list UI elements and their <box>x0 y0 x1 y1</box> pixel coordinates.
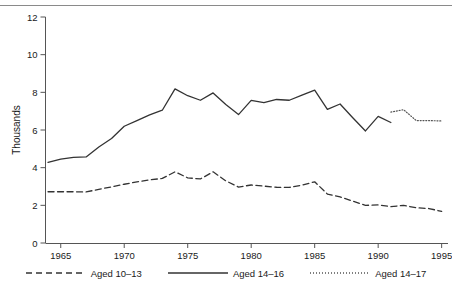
y-tick-label: 10 <box>27 49 38 60</box>
series-line-aged-14-16 <box>48 89 391 162</box>
x-tick-label: 1965 <box>50 250 71 261</box>
y-axis-title: Thousands <box>11 105 22 154</box>
x-axis-tick-labels: 1965197019751980198519901995 <box>50 250 452 261</box>
data-series-group <box>48 89 442 211</box>
x-tick-label: 1970 <box>114 250 135 261</box>
x-tick-label: 1990 <box>368 250 389 261</box>
legend-label-aged-14-17: Aged 14–17 <box>375 268 426 279</box>
x-tick-label: 1975 <box>177 250 198 261</box>
series-line-aged-10-13 <box>48 172 442 212</box>
x-tick-label: 1995 <box>431 250 452 261</box>
y-axis-ticks <box>41 17 46 243</box>
x-axis: 1965197019751980198519901995 <box>46 243 452 261</box>
y-tick-label: 12 <box>27 12 38 23</box>
legend-entry-aged-14-17: Aged 14–17 <box>310 268 426 279</box>
line-chart-svg: 024681012 Thousands 19651970197519801985… <box>0 0 452 288</box>
x-tick-label: 1985 <box>304 250 325 261</box>
legend-label-aged-14-16: Aged 14–16 <box>233 268 284 279</box>
y-tick-label: 6 <box>32 125 37 136</box>
legend-label-aged-10-13: Aged 10–13 <box>91 268 142 279</box>
y-tick-label: 8 <box>32 87 37 98</box>
series-line-aged-14-17 <box>391 110 442 121</box>
y-axis-tick-labels: 024681012 <box>27 12 38 249</box>
y-tick-label: 2 <box>32 200 37 211</box>
chart-legend: Aged 10–13 Aged 14–16 Aged 14–17 <box>0 262 452 284</box>
x-tick-label: 1980 <box>241 250 262 261</box>
legend-swatch-dotted <box>310 268 370 278</box>
legend-entry-aged-10-13: Aged 10–13 <box>26 268 142 279</box>
chart-figure: 024681012 Thousands 19651970197519801985… <box>0 0 452 288</box>
legend-swatch-solid <box>168 268 228 278</box>
y-tick-label: 0 <box>32 238 37 249</box>
legend-swatch-dashed <box>26 268 86 278</box>
y-axis: 024681012 Thousands <box>11 12 46 249</box>
legend-entry-aged-14-16: Aged 14–16 <box>168 268 284 279</box>
y-tick-label: 4 <box>32 162 37 173</box>
